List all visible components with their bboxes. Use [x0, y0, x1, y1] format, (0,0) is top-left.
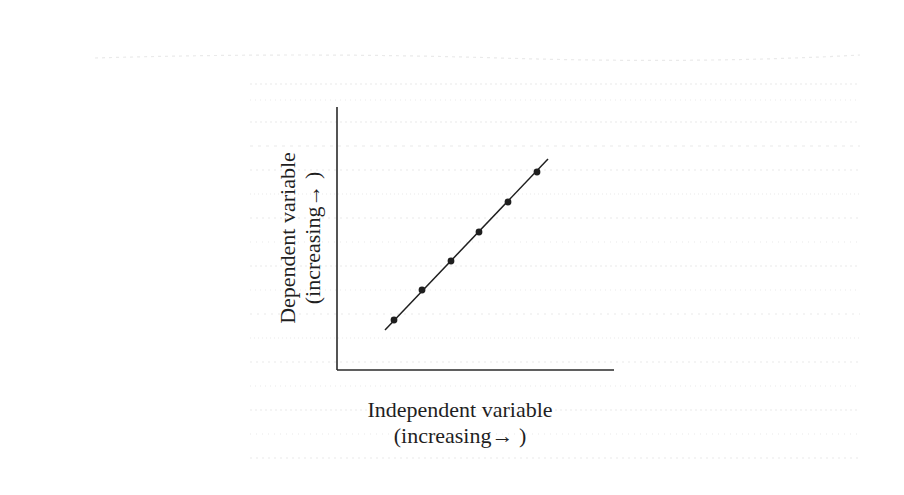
- y-axis-label-line-1: Dependent variable: [275, 88, 300, 388]
- y-axis-label-line-2: (increasing→ ): [300, 88, 325, 388]
- x-axis-label: Independent variable (increasing→ ): [330, 397, 590, 449]
- data-point: [534, 169, 541, 176]
- data-point: [505, 199, 512, 206]
- trend-line: [385, 159, 548, 330]
- data-point: [419, 287, 426, 294]
- x-axis-label-line-1: Independent variable: [330, 397, 590, 423]
- data-point: [391, 317, 398, 324]
- data-point: [448, 258, 455, 265]
- x-axis-label-line-2: (increasing→ ): [330, 423, 590, 449]
- data-point: [476, 229, 483, 236]
- y-axis-label: Dependent variable (increasing→ ): [275, 88, 325, 388]
